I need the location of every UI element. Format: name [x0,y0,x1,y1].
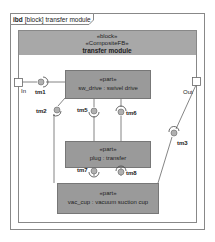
part-sw-drive-label: sw_drive : swivel drive [78,85,138,91]
part-sw-drive-stereotype: «part» [99,76,117,82]
part-vac-cup-label: vac_cup : vacuum suction cup [68,199,149,205]
ball-icon [38,79,44,85]
interface-tm5-label: tm5 [77,107,88,113]
interface-tm3-label: tm3 [177,140,188,146]
ball-icon [118,109,124,115]
interface-tm2-label: tm2 [36,108,47,114]
port-out[interactable] [193,78,201,86]
port-out-label: Out [183,89,193,95]
part-plug-stereotype: «part» [99,146,117,152]
ball-icon [118,169,124,175]
frame-tab-label: ibd[block]transfer module [13,16,91,24]
interface-tm6-label: tm6 [126,110,137,116]
frame-type: [block] [25,16,44,24]
interface-tm7-label: tm7 [77,167,88,173]
block-stereotype-compositefb: «CompositeFB» [85,40,129,46]
ball-icon [54,107,60,113]
ibd-diagram: ibd[block]transfer module «block» «Compo… [0,0,215,242]
interface-tm8-label: tm8 [126,170,137,176]
port-in[interactable] [15,79,23,87]
ball-icon [91,168,97,174]
block-stereotype-block: «block» [97,33,118,39]
port-in-label: In [21,88,26,94]
frame-name: transfer module [46,16,92,23]
part-vac-cup-stereotype: «part» [99,190,117,196]
ball-icon [91,108,97,114]
part-plug-label: plug : transfer [90,155,127,161]
ball-icon [171,130,177,136]
block-name: transfer module [82,47,132,54]
interface-tm1-label: tm1 [35,89,46,95]
frame-kind: ibd [13,16,23,23]
